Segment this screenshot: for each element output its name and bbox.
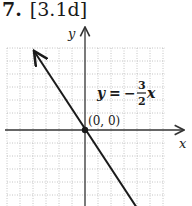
y-axis-label: y <box>67 26 76 41</box>
coordinate-graph: x y (0, 0) y = − 3 2 x <box>0 0 192 206</box>
equation-label: y = − 3 2 x <box>96 79 156 108</box>
equation-numerator: 3 <box>138 79 146 92</box>
equation-variable: x <box>146 85 156 101</box>
equation-denominator: 2 <box>138 95 146 108</box>
equation-sign: − <box>124 85 136 101</box>
x-axis-label: x <box>179 136 187 151</box>
equation-lhs: y <box>96 85 106 101</box>
equation-equals: = <box>109 85 121 101</box>
origin-point-label: (0, 0) <box>88 114 120 128</box>
